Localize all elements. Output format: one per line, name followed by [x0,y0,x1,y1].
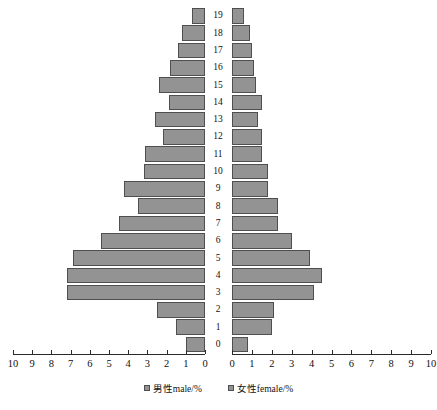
right-axis-tick-1 [252,350,253,354]
right-axis-label-6: 6 [342,358,360,370]
bar-male-age-9 [124,181,205,197]
age-label-17: 17 [207,45,229,56]
bar-male-age-13 [155,112,205,128]
right-axis-tick-7 [371,350,372,354]
age-label-11: 11 [207,149,229,160]
bar-male-age-12 [163,129,205,145]
age-label-8: 8 [207,201,229,212]
age-label-14: 14 [207,97,229,108]
legend-label-male: 男性male/% [153,381,202,395]
bar-female-age-9 [232,181,268,197]
right-axis-tick-2 [272,350,273,354]
bar-female-age-14 [232,95,262,111]
legend-item-male: 男性male/% [144,381,202,395]
right-axis-label-8: 8 [382,358,400,370]
age-label-6: 6 [207,235,229,246]
bar-female-age-7 [232,216,278,232]
right-axis-tick-9 [411,350,412,354]
bar-female-age-5 [232,250,310,266]
right-axis-tick-0 [232,350,233,354]
chart-legend: 男性male/% 女性female/% [0,381,437,395]
bar-male-age-19 [192,8,205,24]
bar-female-age-11 [232,146,262,162]
legend-item-female: 女性female/% [228,381,293,395]
left-axis-label-8: 8 [42,358,60,370]
bar-female-age-13 [232,112,258,128]
bar-female-age-8 [232,198,278,214]
right-axis-label-9: 9 [402,358,420,370]
left-axis-label-9: 9 [23,358,41,370]
age-label-7: 7 [207,218,229,229]
bar-male-age-8 [138,198,205,214]
age-label-15: 15 [207,80,229,91]
age-label-18: 18 [207,28,229,39]
left-axis-label-5: 5 [100,358,118,370]
bar-female-age-1 [232,319,272,335]
bar-male-age-7 [119,216,205,232]
age-label-4: 4 [207,270,229,281]
bar-male-age-10 [144,164,205,180]
right-axis-tick-8 [391,350,392,354]
left-axis-label-2: 2 [158,358,176,370]
legend-swatch-male-icon [144,385,150,391]
right-axis-label-3: 3 [283,358,301,370]
age-label-13: 13 [207,114,229,125]
bar-male-age-16 [170,60,205,76]
bar-male-age-3 [67,285,205,301]
left-axis-tick-4 [128,350,129,354]
right-axis-label-4: 4 [303,358,321,370]
bar-female-age-0 [232,337,248,353]
left-axis-tick-10 [13,350,14,354]
bar-female-age-15 [232,77,256,93]
right-axis-tick-10 [431,350,432,354]
population-pyramid-chart: 0123456789101112131415161718191098765432… [0,0,437,410]
bar-male-age-4 [67,268,205,284]
right-axis-tick-6 [351,350,352,354]
bar-female-age-10 [232,164,268,180]
right-axis-label-10: 10 [422,358,437,370]
right-axis-tick-5 [332,350,333,354]
bar-male-age-11 [145,146,205,162]
left-axis-line [13,354,205,355]
left-axis-tick-5 [109,350,110,354]
age-label-2: 2 [207,304,229,315]
left-axis-tick-3 [147,350,148,354]
left-axis-label-1: 1 [177,358,195,370]
left-axis-label-3: 3 [138,358,156,370]
bar-male-age-6 [101,233,205,249]
age-label-16: 16 [207,62,229,73]
bar-male-age-17 [178,43,205,59]
left-axis-label-7: 7 [62,358,80,370]
age-label-1: 1 [207,322,229,333]
left-axis-tick-1 [186,350,187,354]
left-axis-tick-0 [205,350,206,354]
bar-male-age-14 [169,95,205,111]
age-label-3: 3 [207,287,229,298]
legend-label-female: 女性female/% [237,381,293,395]
bar-female-age-6 [232,233,292,249]
left-axis-tick-2 [167,350,168,354]
left-axis-label-0: 0 [196,358,214,370]
bar-female-age-2 [232,302,274,318]
bar-female-age-3 [232,285,314,301]
age-label-9: 9 [207,183,229,194]
bar-male-age-5 [73,250,205,266]
bar-female-age-16 [232,60,254,76]
bar-male-age-15 [159,77,205,93]
bar-male-age-18 [182,25,205,41]
right-axis-tick-4 [312,350,313,354]
bar-female-age-18 [232,25,250,41]
legend-swatch-female-icon [228,385,234,391]
left-axis-tick-8 [51,350,52,354]
bar-female-age-12 [232,129,262,145]
bar-female-age-19 [232,8,244,24]
left-axis-label-6: 6 [81,358,99,370]
age-label-0: 0 [207,339,229,350]
bar-male-age-0 [186,337,205,353]
plot-area: 0123456789101112131415161718191098765432… [0,0,437,410]
age-label-12: 12 [207,131,229,142]
age-label-19: 19 [207,10,229,21]
bar-female-age-4 [232,268,322,284]
left-axis-label-10: 10 [4,358,22,370]
right-axis-label-7: 7 [362,358,380,370]
